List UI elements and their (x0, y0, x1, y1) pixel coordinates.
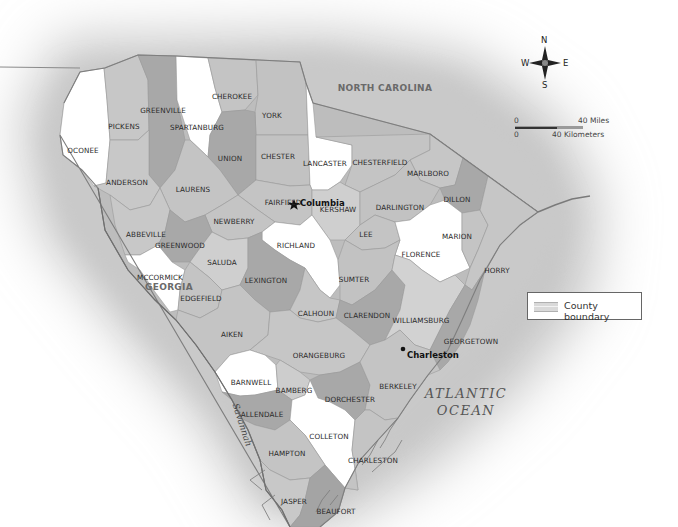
county-label: BERKELEY (379, 382, 416, 391)
city-label: Charleston (407, 350, 459, 360)
neighbor-state-label: GEORGIA (145, 282, 193, 292)
county-label: YORK (262, 111, 282, 120)
county-label: CHESTER (261, 152, 295, 161)
coastline-north (538, 196, 590, 212)
county-label: AIKEN (221, 330, 243, 339)
county-boundary-swatch (534, 302, 558, 312)
county-label: OCONEE (67, 146, 98, 155)
county-label: CLARENDON (344, 311, 391, 320)
scale-bar: 0 40 Miles 0 40 Kilometers (514, 116, 624, 142)
county-label: DORCHESTER (325, 395, 375, 404)
county-label: LANCASTER (303, 159, 347, 168)
county-label: ALLENDALE (241, 410, 284, 419)
county-label: EDGEFIELD (180, 294, 221, 303)
ocean-label: ATLANTIC OCEAN (425, 385, 508, 419)
county-label: ANDERSON (106, 178, 148, 187)
county-label: COLLETON (309, 432, 348, 441)
county-label: MARLBORO (407, 169, 449, 178)
county-york[interactable] (255, 60, 308, 135)
county-chester[interactable] (256, 135, 310, 186)
compass-n: N (541, 35, 547, 45)
capital-city-label: Columbia (300, 198, 345, 208)
scale-bar-km (515, 127, 557, 129)
county-label: ABBEVILLE (126, 230, 166, 239)
county-label: JASPER (281, 497, 307, 506)
county-label: FAIRFIELD (265, 198, 302, 207)
county-label: PICKENS (108, 122, 139, 131)
county-label: FLORENCE (402, 250, 441, 259)
county-label: ORANGEBURG (293, 351, 346, 360)
legend-label: County boundary (564, 300, 641, 322)
county-label: CALHOUN (298, 309, 334, 318)
county-label: BAMBERG (276, 386, 313, 395)
county-label: CHARLESTON (348, 456, 398, 465)
county-label: HORRY (484, 266, 509, 275)
county-label: DILLON (443, 195, 470, 204)
ocean-label-line1: ATLANTIC (425, 385, 508, 402)
county-label: CHEROKEE (212, 92, 252, 101)
compass-w: W (521, 58, 529, 68)
county-label: RICHLAND (277, 241, 315, 250)
state-border-west (0, 67, 80, 68)
county-label: HAMPTON (269, 449, 306, 458)
county-label: WILLIAMSBURG (393, 316, 450, 325)
compass-e: E (563, 58, 568, 68)
scale-miles-start: 0 (514, 116, 519, 125)
scale-km-end: 40 Kilometers (552, 130, 604, 139)
county-label: LEXINGTON (245, 276, 288, 285)
neighbor-state-label: NORTH CAROLINA (338, 83, 432, 93)
city-dot-icon (401, 347, 406, 352)
scale-miles-end: 40 Miles (578, 116, 609, 125)
compass-s: S (542, 80, 547, 90)
county-label: MCCORMICK (137, 273, 183, 282)
county-label: LEE (359, 230, 372, 239)
county-label: GEORGETOWN (444, 337, 498, 346)
county-label: SALUDA (207, 258, 236, 267)
county-label: GREENVILLE (140, 106, 186, 115)
map-canvas: NORTH CAROLINA GEORGIA OCONEE PICKENS GR… (0, 0, 678, 527)
county-label: CHESTERFIELD (353, 158, 408, 167)
scale-km-start: 0 (514, 130, 519, 139)
county-label: LAURENS (176, 185, 211, 194)
county-label: DARLINGTON (376, 203, 425, 212)
map-legend: County boundary (527, 292, 642, 320)
county-label: BEAUFORT (316, 507, 355, 516)
county-label: UNION (218, 154, 242, 163)
county-label: GREENWOOD (155, 241, 205, 250)
county-label: BARNWELL (231, 378, 272, 387)
county-label: SUMTER (339, 275, 370, 284)
county-label: MARION (442, 232, 472, 241)
state-map (0, 0, 678, 527)
ocean-label-line2: OCEAN (425, 402, 508, 419)
county-label: SPARTANBURG (170, 123, 224, 132)
compass-rose: N S E W (520, 38, 570, 88)
county-label: NEWBERRY (213, 217, 254, 226)
county-oconee[interactable] (60, 68, 110, 186)
